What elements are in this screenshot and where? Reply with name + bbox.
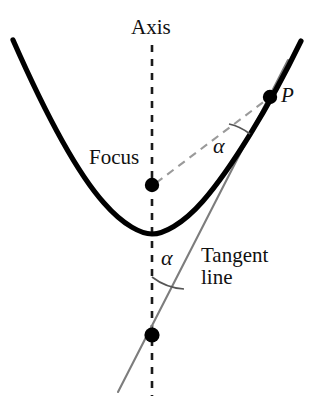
focus-point-marker <box>145 178 159 192</box>
parabola-reflective-property-diagram: Axis Focus P α α Tangent line <box>0 0 319 417</box>
point-p-label: P <box>281 84 294 106</box>
focus-label: Focus <box>89 146 139 168</box>
point-p-marker <box>263 90 277 104</box>
focal-chord-line <box>156 100 266 183</box>
axis-label: Axis <box>131 16 171 38</box>
angle-arc-at-axis <box>152 277 184 289</box>
tangent-axis-intersection-marker <box>144 327 159 342</box>
alpha-angle-label-lower: α <box>161 246 173 269</box>
parabola-curve <box>13 40 301 234</box>
tangent-line-label-line1: Tangent <box>201 244 268 266</box>
angle-arc-at-p <box>229 124 250 134</box>
tangent-line-label-line2: line <box>201 266 268 288</box>
tangent-line-label: Tangent line <box>201 244 268 289</box>
diagram-canvas <box>0 0 319 417</box>
alpha-angle-label-upper: α <box>213 134 225 157</box>
